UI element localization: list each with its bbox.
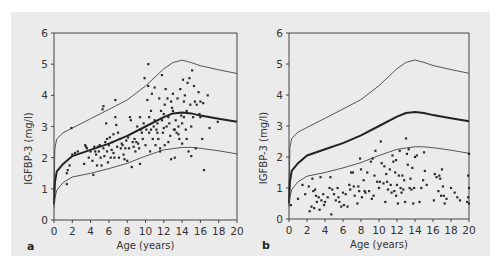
data-point — [454, 192, 456, 194]
data-point — [203, 169, 205, 171]
data-point — [468, 187, 470, 189]
data-point — [202, 102, 204, 104]
data-point — [398, 175, 400, 177]
data-point — [318, 196, 320, 198]
data-point — [94, 150, 96, 152]
data-point — [157, 138, 159, 140]
x-axis-title: Age (years) — [117, 240, 175, 251]
data-point — [66, 172, 68, 174]
data-point — [322, 193, 324, 195]
panel-a: 012345602468101214161820Age (years)IGFBP… — [23, 27, 244, 253]
data-point — [197, 91, 199, 93]
data-point — [416, 154, 418, 156]
data-point — [178, 138, 180, 140]
x-axis-title: Age (years) — [350, 239, 408, 250]
y-tick-label: 6 — [41, 27, 48, 39]
data-point — [190, 125, 192, 127]
data-point — [385, 173, 387, 175]
data-point — [110, 157, 112, 159]
data-point — [122, 144, 124, 146]
x-tick-label: 16 — [194, 225, 208, 237]
data-point — [372, 157, 374, 159]
data-point — [130, 119, 132, 121]
data-point — [185, 129, 187, 131]
data-point — [102, 105, 104, 107]
data-point — [104, 141, 106, 143]
data-point — [331, 188, 333, 190]
data-point — [96, 164, 98, 166]
data-point — [170, 100, 172, 102]
data-point — [150, 129, 152, 131]
data-point — [384, 201, 386, 203]
y-tick-label: 4 — [41, 89, 48, 101]
y-tick-label: 1 — [276, 182, 283, 194]
data-point — [381, 162, 383, 164]
data-point — [71, 153, 73, 155]
data-point — [468, 153, 470, 155]
data-point — [111, 141, 113, 143]
panel-letter: a — [27, 240, 34, 253]
data-point — [319, 209, 321, 211]
data-point — [396, 184, 398, 186]
data-point — [188, 77, 190, 79]
data-point — [391, 192, 393, 194]
data-point — [389, 168, 391, 170]
data-point — [148, 116, 150, 118]
data-point — [364, 190, 366, 192]
data-point — [95, 153, 97, 155]
data-point — [399, 150, 401, 152]
data-point — [346, 206, 348, 208]
data-point — [437, 190, 439, 192]
data-point — [359, 157, 361, 159]
data-point — [409, 187, 411, 189]
data-point — [150, 110, 152, 112]
data-point — [91, 160, 93, 162]
data-point — [172, 110, 174, 112]
data-point — [117, 132, 119, 134]
data-point — [144, 144, 146, 146]
x-tick-label: 14 — [408, 224, 422, 236]
data-point — [403, 179, 405, 181]
data-point — [114, 99, 116, 101]
data-point — [383, 165, 385, 167]
data-point — [90, 150, 92, 152]
data-point — [181, 122, 183, 124]
panel-b: 012345602468101214161820Age (years)IGFBP… — [258, 27, 476, 252]
data-point — [413, 187, 415, 189]
y-axis-title: IGFBP-3 (mg/l) — [258, 112, 269, 184]
data-point — [439, 178, 441, 180]
data-point — [93, 146, 95, 148]
data-point — [308, 185, 310, 187]
data-point — [349, 188, 351, 190]
data-point — [143, 77, 145, 79]
data-point — [128, 147, 130, 149]
data-point — [187, 150, 189, 152]
data-point — [382, 182, 384, 184]
data-point — [366, 171, 368, 173]
data-point — [327, 196, 329, 198]
data-point — [408, 148, 410, 150]
data-point — [122, 153, 124, 155]
reference-curve-lower — [289, 147, 469, 207]
data-point — [401, 175, 403, 177]
data-point — [468, 202, 470, 204]
data-point — [147, 63, 149, 65]
data-point — [85, 146, 87, 148]
x-tick-label: 2 — [304, 224, 311, 236]
data-point — [154, 86, 156, 88]
data-point — [357, 185, 359, 187]
data-point — [311, 178, 313, 180]
data-point — [412, 202, 414, 204]
data-point — [337, 196, 339, 198]
data-point — [177, 133, 179, 135]
data-point — [195, 147, 197, 149]
data-point — [162, 132, 164, 134]
data-point — [172, 93, 174, 95]
data-point — [196, 104, 198, 106]
data-point — [183, 100, 185, 102]
data-point — [186, 110, 188, 112]
data-point — [181, 143, 183, 145]
data-point — [112, 152, 114, 154]
data-point — [201, 138, 203, 140]
data-point — [395, 159, 397, 161]
